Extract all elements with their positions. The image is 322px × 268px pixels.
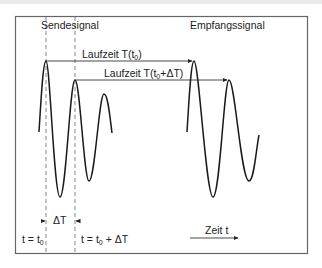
receive-signal-label: Empfangssignal bbox=[190, 20, 265, 31]
runtime-2-label: Laufzeit T(t0+ΔT) bbox=[104, 68, 183, 79]
send-signal-label: Sendesignal bbox=[41, 20, 99, 31]
runtime-1-label: Laufzeit T(t0) bbox=[82, 49, 142, 60]
delta-t-label: ΔT bbox=[53, 215, 66, 226]
t-equals-t0-label: t = t0 bbox=[22, 234, 44, 245]
wave-diagram bbox=[0, 0, 322, 268]
receive-signal-wave bbox=[187, 61, 259, 197]
send-signal-wave bbox=[39, 61, 112, 197]
time-axis-label: Zeit t bbox=[205, 225, 228, 236]
t-equals-t0-plus-dt-label: t = t0 + ΔT bbox=[81, 234, 128, 245]
